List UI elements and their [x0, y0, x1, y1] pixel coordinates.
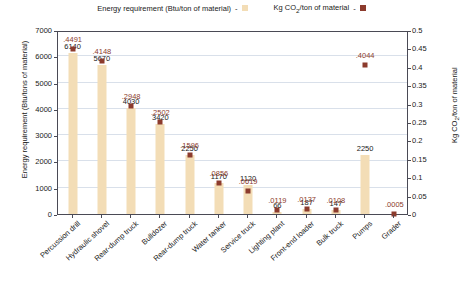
category-slot: 2250.1596: [175, 32, 204, 214]
co2-value-label: .0108: [326, 196, 345, 205]
bar[interactable]: [156, 124, 165, 214]
bar[interactable]: [361, 155, 370, 214]
co2-marker[interactable]: [70, 46, 75, 51]
x-tick-mark: [130, 215, 131, 218]
co2-value-label: .0856: [209, 169, 228, 178]
x-tick-mark: [159, 215, 160, 218]
y-tick-left: 5000: [12, 80, 52, 88]
bar[interactable]: [97, 65, 106, 214]
chart-root: Energy requirement (Btu/ton of material)…: [0, 0, 463, 285]
category-slot: 6140.4491: [58, 32, 87, 214]
co2-marker[interactable]: [304, 206, 309, 211]
x-tick-mark: [393, 215, 394, 218]
y-axis-title-right: Kg CO2/ton of material: [450, 20, 461, 190]
bar-value-label: 2250: [357, 144, 374, 153]
co2-marker[interactable]: [158, 119, 163, 124]
x-axis-label: Grader: [380, 219, 403, 241]
co2-marker[interactable]: [129, 103, 134, 108]
category-slot: .0005: [380, 32, 409, 214]
category-slot: 4030.2948: [117, 32, 146, 214]
y-tick-right: 0.2: [412, 137, 446, 145]
plot-area: 6140.44915670.41484030.29483420.25022250…: [57, 31, 408, 215]
category-slot: 5670.4148: [87, 32, 116, 214]
y-tick-mark-right: [408, 105, 411, 106]
legend-dash-co2: -: [353, 4, 356, 13]
x-tick-mark: [101, 215, 102, 218]
x-tick-mark: [247, 215, 248, 218]
y-tick-mark-left: [54, 57, 57, 58]
co2-marker[interactable]: [246, 189, 251, 194]
y-tick-left: 6000: [12, 53, 52, 61]
co2-marker[interactable]: [333, 208, 338, 213]
co2-marker[interactable]: [187, 153, 192, 158]
y-tick-left: 7000: [12, 27, 52, 35]
y-tick-mark-right: [408, 49, 411, 50]
y-tick-mark-right: [408, 141, 411, 142]
y-tick-left: 4000: [12, 106, 52, 114]
y-tick-mark-right: [408, 215, 411, 216]
y-tick-right: 0.05: [412, 193, 446, 201]
y-tick-mark-right: [408, 160, 411, 161]
bar[interactable]: [273, 212, 282, 214]
chart-legend: Energy requirement (Btu/ton of material)…: [0, 3, 463, 14]
x-tick-mark: [189, 215, 190, 218]
co2-marker[interactable]: [99, 59, 104, 64]
y-tick-mark-left: [54, 162, 57, 163]
y-tick-mark-right: [408, 197, 411, 198]
co2-value-label: .2948: [122, 92, 141, 101]
co2-value-label: .1596: [180, 141, 199, 150]
co2-value-label: .0005: [385, 200, 404, 209]
y-tick-right: 0.45: [412, 45, 446, 53]
co2-value-label: .0119: [268, 196, 286, 205]
y-tick-mark-left: [54, 189, 57, 190]
x-tick-mark: [306, 215, 307, 218]
x-tick-mark: [276, 215, 277, 218]
category-slot: 3420.2502: [146, 32, 175, 214]
co2-marker[interactable]: [275, 207, 280, 212]
y-tick-mark-right: [408, 68, 411, 69]
y-tick-mark-right: [408, 31, 411, 32]
x-axis-label: Bulk truck: [314, 219, 344, 248]
category-slot: 1170.0856: [204, 32, 233, 214]
y-tick-mark-right: [408, 178, 411, 179]
co2-value-label: .4491: [63, 35, 82, 44]
y-tick-mark-left: [54, 110, 57, 111]
co2-value-label: .2502: [151, 108, 170, 117]
legend-label-co2: Kg CO2/ton of material: [274, 3, 350, 14]
y-tick-left: 1000: [12, 185, 52, 193]
co2-value-label: .0619: [239, 177, 258, 186]
category-slot: 187.0137: [292, 32, 321, 214]
category-slot: 2250.4044: [351, 32, 380, 214]
y-tick-left: 0: [12, 211, 52, 219]
co2-value-label: .0137: [297, 195, 316, 204]
y-tick-mark-left: [54, 31, 57, 32]
y-tick-mark-right: [408, 123, 411, 124]
y-tick-right: 0.3: [412, 101, 446, 109]
y-tick-right: 0.1: [412, 174, 446, 182]
legend-label-energy: Energy requirement (Btu/ton of material): [97, 4, 231, 13]
legend-swatch-co2: [360, 5, 366, 11]
y-tick-mark-left: [54, 215, 57, 216]
co2-value-label: .4044: [356, 51, 375, 60]
x-tick-mark: [72, 215, 73, 218]
y-tick-right: 0.35: [412, 82, 446, 90]
y-tick-mark-left: [54, 84, 57, 85]
bar[interactable]: [214, 183, 223, 214]
x-tick-mark: [218, 215, 219, 218]
co2-marker[interactable]: [363, 63, 368, 68]
x-axis-label: Pumps: [351, 219, 374, 241]
gridline: [58, 29, 407, 30]
category-slot: 1120.0619: [234, 32, 263, 214]
category-slot: 66.0119: [263, 32, 292, 214]
bar[interactable]: [127, 108, 136, 214]
category-slot: 147.0108: [321, 32, 350, 214]
legend-dash-energy: -: [235, 4, 238, 13]
y-tick-left: 3000: [12, 132, 52, 140]
y-tick-right: 0.5: [412, 27, 446, 35]
bar[interactable]: [68, 53, 77, 214]
legend-item-energy: Energy requirement (Btu/ton of material)…: [97, 4, 247, 13]
x-tick-mark: [364, 215, 365, 218]
bar[interactable]: [185, 155, 194, 214]
y-tick-right: 0.25: [412, 119, 446, 127]
co2-marker[interactable]: [216, 180, 221, 185]
